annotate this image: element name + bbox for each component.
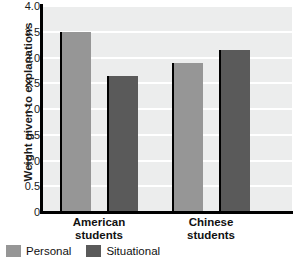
legend-swatch-situational [86, 245, 101, 257]
x-axis-label-chinese: Chinesestudents [151, 216, 271, 242]
bar-situational-chinese [219, 50, 250, 212]
bar-situational-american [107, 76, 138, 212]
y-axis-tick-3-5: 3.5 [8, 26, 40, 38]
legend-entry-situational: Situational [86, 245, 160, 257]
plot-area [43, 6, 292, 212]
y-axis-line [40, 4, 43, 214]
y-axis-tick-labels: 00.51.01.52.02.53.03.54.0 [8, 0, 40, 213]
legend-swatch-personal [6, 245, 21, 257]
y-axis-tick-2-5: 2.5 [8, 77, 40, 89]
y-axis-tick-0-5: 0.5 [8, 180, 40, 192]
x-axis-label-line: students [39, 229, 159, 242]
y-axis-tick-4-0: 4.0 [8, 0, 40, 12]
x-axis-line [40, 211, 293, 214]
bar-chart-figure: Weight given to explanations 00.51.01.52… [0, 0, 293, 263]
x-axis-label-line: American [39, 216, 159, 229]
y-axis-tick-1-0: 1.0 [8, 155, 40, 167]
x-axis-label-line: students [151, 229, 271, 242]
y-axis-tick-3-0: 3.0 [8, 52, 40, 64]
bar-personal-chinese [172, 63, 203, 212]
chart-legend: PersonalSituational [6, 245, 168, 257]
y-axis-tick-1-5: 1.5 [8, 129, 40, 141]
legend-label: Personal [26, 245, 71, 257]
legend-label: Situational [106, 245, 160, 257]
legend-entry-personal: Personal [6, 245, 71, 257]
gridline [43, 6, 292, 7]
x-axis-label-american: Americanstudents [39, 216, 159, 242]
x-axis-label-line: Chinese [151, 216, 271, 229]
bar-personal-american [60, 32, 91, 212]
y-axis-tick-0: 0 [8, 206, 40, 218]
y-axis-tick-2-0: 2.0 [8, 103, 40, 115]
